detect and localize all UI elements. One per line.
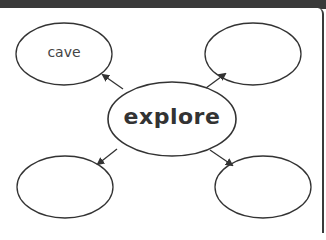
arrow-top-left bbox=[103, 75, 123, 89]
node-top-right-shape[interactable] bbox=[205, 23, 301, 85]
arrow-top-right bbox=[206, 74, 225, 88]
node-top-left-label[interactable]: cave bbox=[16, 44, 112, 60]
node-bottom-right-shape[interactable] bbox=[215, 156, 311, 218]
arrow-bottom-right bbox=[210, 150, 232, 165]
node-bottom-left-shape[interactable] bbox=[17, 156, 113, 218]
center-node-label: explore bbox=[108, 104, 236, 129]
arrow-bottom-left bbox=[98, 149, 117, 164]
